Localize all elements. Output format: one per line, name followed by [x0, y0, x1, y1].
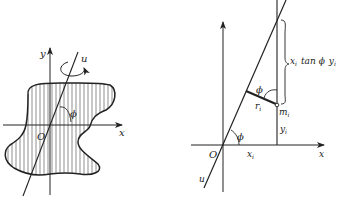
right-origin-label: O	[209, 149, 217, 160]
left-angle-label: ϕ	[70, 108, 77, 119]
xi-label: xi	[247, 149, 254, 160]
mi-label: mi	[279, 107, 290, 118]
right-u-label: u	[199, 174, 205, 184]
right-x-label: x	[319, 149, 324, 159]
left-origin-label: O	[37, 131, 45, 142]
ri-label: ri	[255, 101, 261, 112]
right-figure: ϕ ϕ ri mi yi xi O x u xitan ϕyi	[191, 0, 336, 192]
mass-angle-arc	[264, 90, 277, 98]
rotation-arrow-icon	[61, 62, 85, 76]
diagram-canvas: y u x O ϕ ϕ ϕ ri mi yi xi O x u xitan ϕy…	[0, 0, 343, 213]
origin-angle-label: ϕ	[237, 131, 244, 142]
left-u-label: u	[81, 53, 87, 64]
left-figure: y u x O ϕ	[3, 48, 125, 196]
left-y-label: y	[39, 48, 46, 59]
left-x-label: x	[119, 127, 125, 138]
brace	[281, 20, 289, 104]
brace-expression: xitan ϕyi	[290, 56, 336, 67]
yi-label: yi	[279, 124, 287, 135]
mass-angle-label: ϕ	[256, 84, 263, 95]
